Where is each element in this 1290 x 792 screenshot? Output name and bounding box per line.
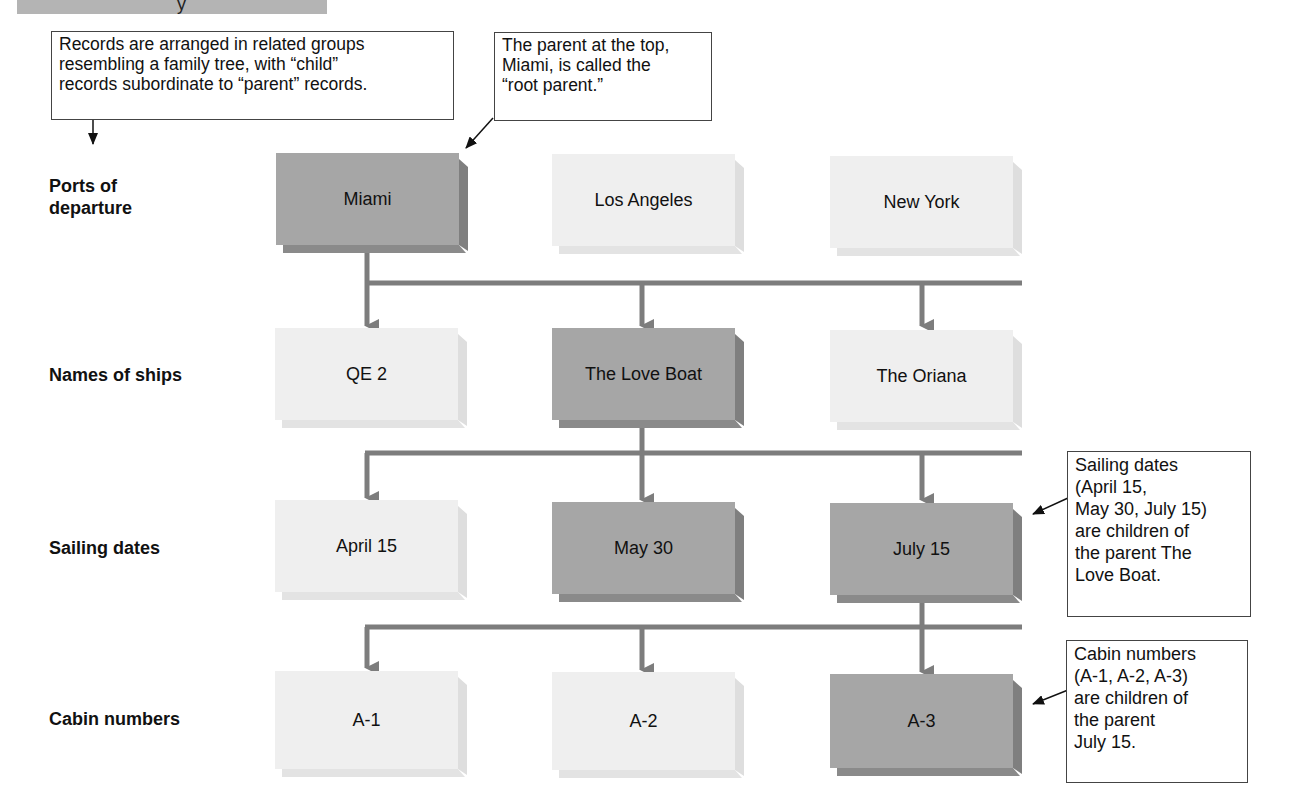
node-a-3[interactable]: A-3	[830, 674, 1013, 768]
node-a-1[interactable]: A-1	[275, 671, 458, 769]
node-april-15[interactable]: April 15	[275, 500, 458, 592]
row-label-ports: Ports of departure	[49, 175, 132, 219]
node-july-15[interactable]: July 15	[830, 503, 1013, 595]
node-may-30[interactable]: May 30	[552, 502, 735, 594]
row-label-cabins: Cabin numbers	[49, 708, 180, 730]
callout-arrangement: Records are arranged in related groups r…	[51, 31, 454, 120]
node-miami[interactable]: Miami	[276, 153, 459, 245]
node-los-angeles[interactable]: Los Angeles	[552, 154, 735, 246]
node-a-2[interactable]: A-2	[552, 672, 735, 770]
callout-cabin-numbers: Cabin numbers (A-1, A-2, A-3) are childr…	[1066, 640, 1248, 783]
node-the-love-boat[interactable]: The Love Boat	[552, 328, 735, 420]
node-the-oriana[interactable]: The Oriana	[830, 330, 1013, 422]
row-label-ships: Names of ships	[49, 364, 182, 386]
node-qe2[interactable]: QE 2	[275, 328, 458, 420]
row-label-sailing-dates: Sailing dates	[49, 537, 160, 559]
callout-root-parent: The parent at the top, Miami, is called …	[494, 32, 712, 121]
callout-sailing-dates: Sailing dates (April 15, May 30, July 15…	[1067, 451, 1251, 617]
node-new-york[interactable]: New York	[830, 156, 1013, 248]
